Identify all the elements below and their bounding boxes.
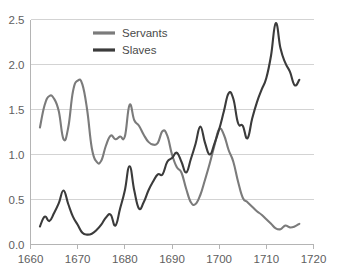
legend-label-servants: Servants bbox=[122, 27, 168, 39]
x-tick-label-1710: 1710 bbox=[254, 253, 280, 265]
legend-label-slaves: Slaves bbox=[122, 44, 157, 56]
chart-container: 0.00.51.01.52.02.5 166016701680169017001… bbox=[0, 0, 337, 276]
x-tick-label-1670: 1670 bbox=[65, 253, 91, 265]
chart-legend: ServantsSlaves bbox=[93, 27, 168, 56]
line-chart: 0.00.51.01.52.02.5 166016701680169017001… bbox=[0, 0, 337, 276]
x-tick-label-1690: 1690 bbox=[159, 253, 185, 265]
y-tick-label-1: 1.0 bbox=[9, 149, 25, 161]
y-tick-label-0: 0.0 bbox=[9, 239, 25, 251]
y-tick-label-0.5: 0.5 bbox=[9, 194, 25, 206]
axis-tick-marks bbox=[31, 245, 314, 249]
x-tick-label-1680: 1680 bbox=[112, 253, 138, 265]
series-line-slaves bbox=[40, 23, 299, 235]
y-axis-tick-labels: 0.00.51.01.52.02.5 bbox=[9, 14, 25, 251]
y-tick-label-1.5: 1.5 bbox=[9, 104, 25, 116]
x-axis-tick-labels: 1660167016801690170017101720 bbox=[18, 253, 327, 265]
y-tick-label-2: 2.0 bbox=[9, 59, 25, 71]
y-tick-label-2.5: 2.5 bbox=[9, 14, 25, 26]
data-series bbox=[40, 23, 299, 235]
x-tick-label-1700: 1700 bbox=[206, 253, 232, 265]
x-tick-label-1720: 1720 bbox=[301, 253, 327, 265]
x-tick-label-1660: 1660 bbox=[18, 253, 44, 265]
